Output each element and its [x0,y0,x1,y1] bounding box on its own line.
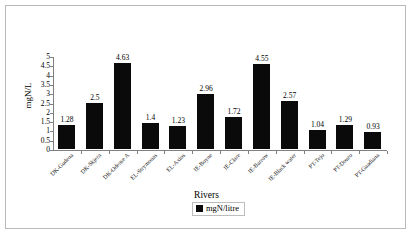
bar[interactable] [58,125,75,149]
bar[interactable] [169,126,186,149]
bar[interactable] [86,103,103,150]
bar-slot: 1.04 [304,56,332,149]
bar-slot: 2.57 [276,56,304,149]
y-axis-tick-mark [50,131,53,132]
bar-slot: 4.63 [109,56,137,149]
y-axis-tick-labels: 00.511.522.533.544.55 [28,57,50,151]
y-axis-tick-label: 2 [28,109,50,117]
plot-area: 1.282.54.631.41.232.961.724.552.571.041.… [53,57,387,150]
bar-slot: 1.72 [220,56,248,149]
bar-slot: 1.23 [164,56,192,149]
y-axis-tick-label: 3.5 [28,81,50,89]
y-axis-tick-label: 2.5 [28,100,50,108]
bar-slot: 1.28 [53,56,81,149]
x-axis-tick-mark [387,151,388,154]
y-axis-tick-label: 5 [28,53,50,61]
bar[interactable] [114,63,131,149]
bar[interactable] [336,125,353,149]
legend-swatch-icon [196,205,203,212]
y-axis-tick-label: 0 [28,146,50,154]
bar-value-label: 0.93 [353,123,393,131]
y-axis-tick-mark [50,150,53,151]
bar-slot: 2.5 [81,56,109,149]
x-axis-category-labels: DK-GudenaDK-SkjernDK-Odense AEL-Strymona… [53,152,387,194]
y-axis-tick-mark [50,85,53,86]
bar-slot: 2.96 [192,56,220,149]
chart-figure-frame: mgN/L 00.511.522.533.544.55 1.282.54.631… [5,5,406,229]
y-axis-tick-label: 1 [28,127,50,135]
bar[interactable] [253,64,270,149]
y-axis-tick-label: 3 [28,90,50,98]
chart-legend: mgN/litre [192,202,245,216]
bar-slot: 1.4 [137,56,165,149]
y-axis-tick-mark [50,104,53,105]
bar[interactable] [364,132,381,149]
bar[interactable] [225,117,242,149]
bar-slot: 1.29 [331,56,359,149]
y-axis-tick-mark [50,66,53,67]
bar[interactable] [281,101,298,149]
y-axis-tick-mark [50,113,53,114]
y-axis-tick-label: 4.5 [28,62,50,70]
x-axis-title: Rivers [6,190,407,200]
y-axis-tick-mark [50,141,53,142]
y-axis-tick-label: 0.5 [28,137,50,145]
y-axis-tick-mark [50,76,53,77]
bar-slot: 0.93 [359,56,387,149]
legend-label: mgN/litre [206,204,239,213]
bar[interactable] [142,123,159,149]
y-axis-tick-mark [50,122,53,123]
bar[interactable] [309,130,326,149]
y-axis-tick-mark [50,94,53,95]
y-axis-tick-label: 4 [28,72,50,80]
y-axis-tick-mark [50,57,53,58]
bar[interactable] [197,94,214,149]
bar-slot: 4.55 [248,56,276,149]
